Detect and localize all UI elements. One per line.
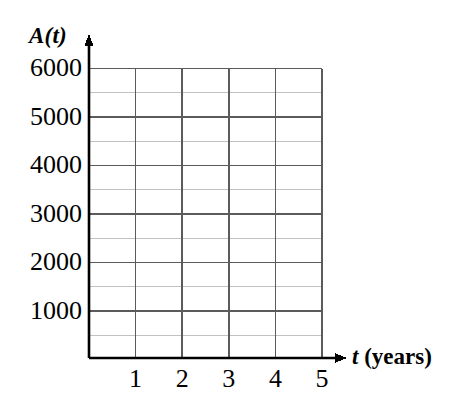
x-tick-label-4: 4 xyxy=(255,366,295,392)
x-tick-label-2: 2 xyxy=(162,366,202,392)
y-tick-label-4000: 4000 xyxy=(4,152,82,178)
y-axis-arrow-icon xyxy=(84,34,93,46)
y-tick-label-1000: 1000 xyxy=(4,298,82,324)
y-axis xyxy=(84,34,93,358)
y-tick-label-5000: 5000 xyxy=(4,104,82,130)
y-tick-label-3000: 3000 xyxy=(4,201,82,227)
x-axis-title-unit: (years) xyxy=(364,344,432,369)
x-axis-title: t (years) xyxy=(352,345,432,368)
graph-figure: A(t) t (years) 6000 5000 4000 3000 2000 … xyxy=(0,0,461,411)
x-axis-title-variable: t xyxy=(352,344,358,369)
y-axis-title: A(t) xyxy=(29,24,67,47)
y-tick-label-2000: 2000 xyxy=(4,249,82,275)
y-tick-label-6000: 6000 xyxy=(4,55,82,81)
x-tick-label-3: 3 xyxy=(209,366,249,392)
x-axis-arrow-icon xyxy=(335,353,347,363)
x-axis xyxy=(89,353,347,363)
x-tick-label-5: 5 xyxy=(302,366,342,392)
x-tick-label-1: 1 xyxy=(116,366,156,392)
